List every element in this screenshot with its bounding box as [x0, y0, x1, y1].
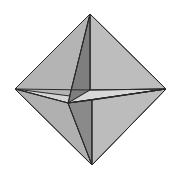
octahedron-diagram	[0, 0, 177, 173]
